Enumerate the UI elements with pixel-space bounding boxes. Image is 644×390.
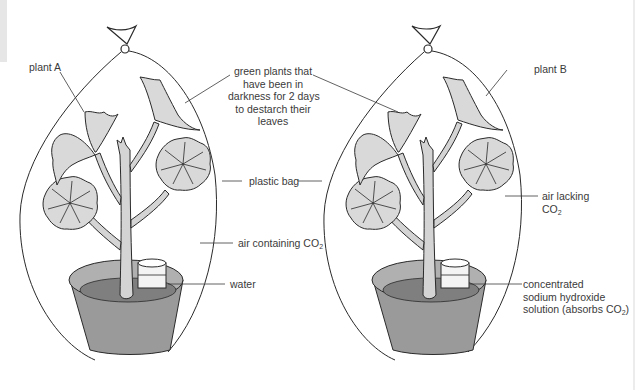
setup-plant-a	[20, 26, 217, 360]
label-sodium-hydroxide: concentrated sodium hydroxide solution (…	[523, 278, 629, 316]
label-plant-a: plant A	[29, 61, 61, 74]
label-air-lacking-co2: air lacking CO2	[542, 190, 589, 215]
bag-tie-icon	[107, 26, 136, 44]
label-plant-b: plant B	[534, 63, 567, 76]
label-plastic-bag: plastic bag	[249, 175, 299, 188]
label-air-containing-co2: air containing CO2	[238, 237, 323, 250]
setup-plant-b	[324, 26, 522, 360]
label-water: water	[230, 278, 256, 291]
bag-tie-icon	[412, 26, 440, 44]
label-green-plants: green plants that have been in darkness …	[228, 65, 318, 128]
diagram-stage: plant A green plants that have been in d…	[0, 0, 644, 390]
